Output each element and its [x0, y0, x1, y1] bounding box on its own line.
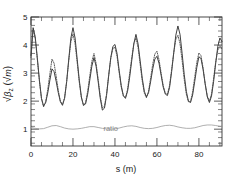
- x-tick-label: 0: [29, 150, 34, 159]
- figure: 02040608012345 ratio s (m) √βz (√m): [0, 0, 243, 180]
- data-series-layer: [31, 26, 222, 129]
- x-tick-label: 20: [69, 150, 78, 159]
- ratio-curve: [31, 125, 222, 129]
- x-tick-label: 40: [111, 150, 120, 159]
- tick-labels-layer: 02040608012345: [23, 13, 204, 159]
- svg-text:√βz (√m): √βz (√m): [2, 66, 14, 102]
- y-tick-label: 3: [23, 69, 28, 78]
- y-tick-label: 2: [23, 97, 28, 106]
- y-tick-label: 4: [23, 41, 28, 50]
- y-tick-label: 1: [23, 125, 28, 134]
- y-tick-label: 5: [23, 13, 28, 22]
- chart-canvas: 02040608012345 ratio s (m) √βz (√m): [0, 0, 243, 180]
- annotations-layer: ratio: [103, 124, 118, 133]
- x-tick-label: 80: [194, 150, 203, 159]
- ratio-annotation: ratio: [103, 124, 118, 133]
- y-axis-title: √βz (√m): [2, 66, 14, 102]
- x-tick-label: 60: [152, 150, 161, 159]
- svg-text:s (m): s (m): [116, 164, 137, 174]
- x-axis-title: s (m): [116, 164, 137, 174]
